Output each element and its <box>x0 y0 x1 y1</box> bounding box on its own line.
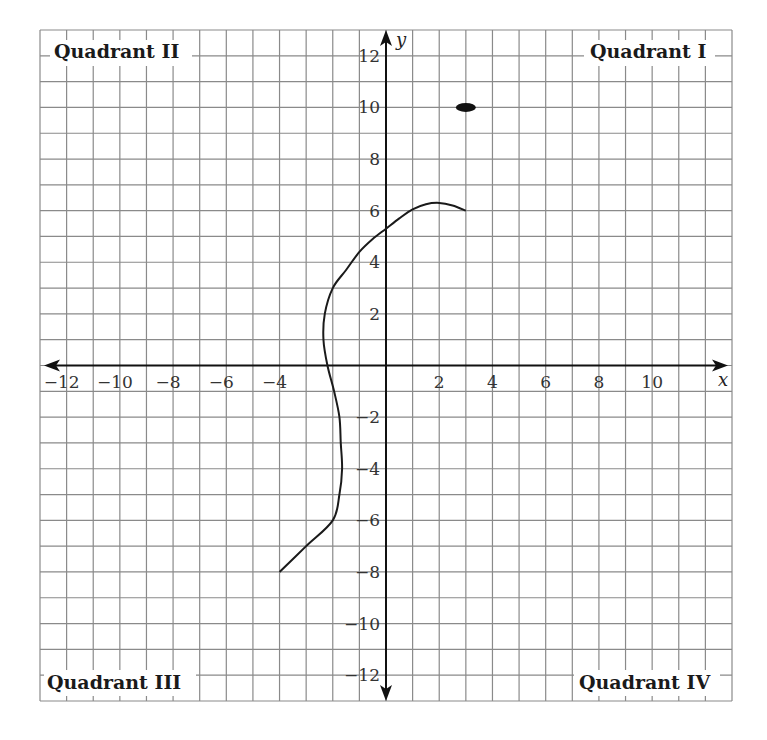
x-tick-label: 2 <box>434 372 445 392</box>
y-tick-label: 8 <box>369 149 380 169</box>
y-tick-label: −12 <box>344 665 380 685</box>
x-tick-label: 6 <box>540 372 551 392</box>
x-tick-label: 4 <box>487 372 498 392</box>
coordinate-plane: −12−10−8−6−424681012108642−2−4−6−8−10−12… <box>0 0 767 740</box>
x-tick-label: −8 <box>156 372 181 392</box>
y-tick-label: 12 <box>358 46 380 66</box>
y-tick-label: 6 <box>369 201 380 221</box>
y-tick-label: 10 <box>358 97 380 117</box>
data-series <box>280 103 476 572</box>
x-tick-label: −12 <box>44 372 80 392</box>
y-tick-label: −2 <box>355 407 380 427</box>
x-tick-label: 8 <box>594 372 605 392</box>
y-tick-label: −10 <box>344 614 380 634</box>
quadrant-iii-label: Quadrant III <box>47 671 181 693</box>
data-point <box>456 103 476 112</box>
x-tick-label: 10 <box>641 372 663 392</box>
y-tick-label: 2 <box>369 304 380 324</box>
y-tick-label: −4 <box>355 459 380 479</box>
y-tick-label: 4 <box>369 252 380 272</box>
x-tick-label: −10 <box>97 372 133 392</box>
x-axis-label: x <box>718 369 728 390</box>
quadrant-i-label: Quadrant I <box>590 40 706 62</box>
y-tick-label: −6 <box>355 510 380 530</box>
x-tick-label: −4 <box>262 372 287 392</box>
quadrant-iv-label: Quadrant IV <box>579 671 711 693</box>
quadrant-ii-label: Quadrant II <box>54 40 179 62</box>
x-tick-label: −6 <box>209 372 234 392</box>
y-axis-label: y <box>395 29 407 50</box>
y-tick-label: −8 <box>355 562 380 582</box>
